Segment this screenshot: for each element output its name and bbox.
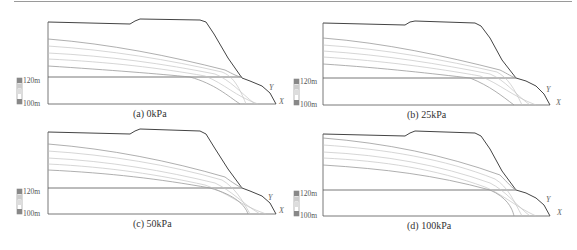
slope-section-diagram xyxy=(290,125,577,250)
scale-bottom-label: 100m xyxy=(23,209,40,218)
slope-section-diagram xyxy=(0,125,288,250)
scale-top-label: 120m xyxy=(23,187,40,196)
scale-bottom-label: 100m xyxy=(300,211,317,220)
scale-top-label: 120m xyxy=(23,76,40,85)
scale-bottom-label: 100m xyxy=(23,99,40,108)
panel-caption: (c) 50kPa xyxy=(133,218,172,229)
scale-top-label: 120m xyxy=(300,189,317,198)
point-x-label: X xyxy=(279,97,284,106)
scale-top-label: 120m xyxy=(300,77,317,86)
panel-c: 120m 100m Y X (c) 50kPa xyxy=(0,125,288,250)
slope-section-diagram xyxy=(290,0,577,125)
point-y-label: Y xyxy=(269,83,273,92)
point-x-label: X xyxy=(279,206,284,215)
slope-section-diagram xyxy=(0,0,288,125)
panel-caption: (b) 25kPa xyxy=(407,109,446,120)
panel-a: 120m 100m Y X (a) 0kPa xyxy=(0,0,288,125)
panel-d: 120m 100m Y X (d) 100kPa xyxy=(290,125,577,250)
panel-caption: (d) 100kPa xyxy=(407,220,451,231)
point-y-label: Y xyxy=(546,85,550,94)
panel-caption: (a) 0kPa xyxy=(133,108,167,119)
panel-b: 120m 100m Y X (b) 25kPa xyxy=(290,0,577,125)
point-x-label: X xyxy=(556,98,561,107)
scale-bottom-label: 100m xyxy=(300,100,317,109)
point-y-label: Y xyxy=(546,195,550,204)
point-x-label: X xyxy=(557,208,562,217)
point-y-label: Y xyxy=(268,193,272,202)
